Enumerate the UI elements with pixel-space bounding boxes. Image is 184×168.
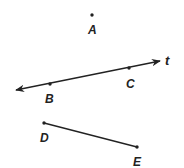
point-b: [48, 82, 51, 85]
point-b-label: B: [45, 92, 54, 106]
line-t: [16, 61, 160, 90]
line-t-label: t: [165, 53, 170, 68]
point-c-label: C: [126, 77, 135, 91]
point-d-label: D: [40, 131, 49, 145]
geometry-diagram: t A B C D E: [0, 0, 184, 168]
point-a: [90, 13, 93, 16]
point-d: [42, 121, 45, 124]
point-e-label: E: [133, 155, 142, 168]
segment-de: [44, 123, 137, 147]
point-a-label: A: [87, 23, 97, 37]
point-c: [127, 66, 130, 69]
point-e: [135, 145, 138, 148]
